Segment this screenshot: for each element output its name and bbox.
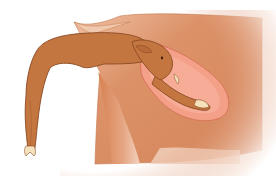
calving-illustration	[0, 0, 276, 176]
rear-hoof	[25, 146, 36, 156]
calf-eye	[161, 57, 163, 60]
illustration-canvas	[0, 0, 276, 176]
